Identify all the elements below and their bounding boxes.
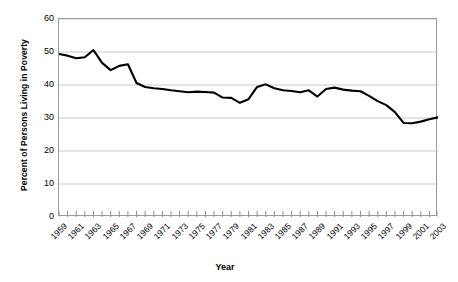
y-tick-label: 30 bbox=[30, 112, 54, 122]
x-axis-tick-labels: 1959196119631965196719691971197319751977… bbox=[58, 217, 437, 262]
series-line-poverty bbox=[59, 50, 438, 123]
x-axis-title: Year bbox=[0, 262, 458, 272]
y-tick-label: 50 bbox=[30, 46, 54, 56]
y-tick-label: 40 bbox=[30, 79, 54, 89]
y-tick-label: 0 bbox=[30, 211, 54, 221]
x-axis-title-text: Year bbox=[215, 262, 234, 272]
gridlines bbox=[59, 19, 438, 184]
plot-area bbox=[58, 18, 437, 216]
y-tick-label: 60 bbox=[30, 13, 54, 23]
y-tick-label: 10 bbox=[30, 178, 54, 188]
plot-svg bbox=[59, 19, 438, 217]
poverty-line-chart: Percent of Persons Living in Poverty 010… bbox=[0, 0, 458, 282]
y-tick-label: 20 bbox=[30, 145, 54, 155]
